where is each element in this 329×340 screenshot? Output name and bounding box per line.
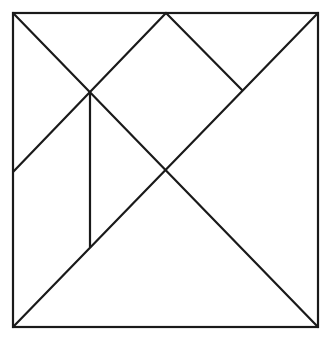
line-topmid-to-rightjoint — [166, 13, 242, 90]
tangram-diagram — [0, 0, 329, 340]
